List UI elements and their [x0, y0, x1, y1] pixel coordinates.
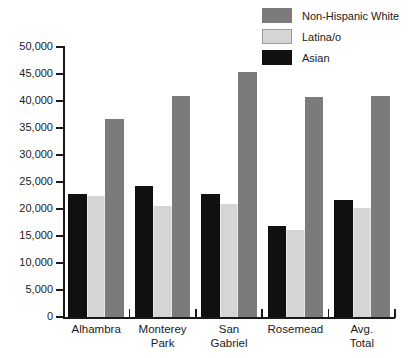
x-axis-category-label-line: Alhambra	[63, 322, 129, 336]
bar-latina-o-alhambra	[87, 196, 106, 318]
bar-non-hispanic-white-alhambra	[105, 119, 124, 317]
y-axis-tick-label: 30,000	[0, 149, 53, 160]
y-axis-tick-label: 20,000	[0, 203, 53, 214]
legend-label-non-hispanic-white: Non-Hispanic White	[302, 10, 399, 22]
y-axis-tick	[56, 289, 63, 291]
x-axis-category-label-line: San	[196, 322, 262, 336]
y-axis-tick-label: 45,000	[0, 68, 53, 79]
bar-latina-o-san-gabriel	[220, 204, 239, 317]
legend-swatch-non-hispanic-white	[262, 8, 292, 23]
bar-asian-alhambra	[68, 194, 87, 317]
x-axis-category-label-line: Gabriel	[196, 336, 262, 350]
x-axis-category-label-line: Rosemead	[262, 322, 328, 336]
y-axis-tick	[56, 262, 63, 264]
y-axis-tick-label: 35,000	[0, 122, 53, 133]
bar-non-hispanic-white-rosemead	[305, 97, 324, 317]
y-axis-tick	[56, 181, 63, 183]
y-axis-tick	[56, 235, 63, 237]
plot-area	[63, 47, 395, 317]
bar-chart: Non-Hispanic White Latina/o Asian 50,000…	[0, 0, 409, 358]
y-axis-tick-label: 10,000	[0, 257, 53, 268]
bar-non-hispanic-white-monterey-park	[172, 96, 191, 317]
y-axis-tick-label: 5,000	[0, 284, 53, 295]
y-axis-tick	[56, 208, 63, 210]
legend-swatch-latina-o	[262, 29, 292, 44]
x-axis-category-label-san-gabriel: SanGabriel	[196, 322, 262, 350]
x-axis-category-label-line: Park	[129, 336, 195, 350]
x-axis-category-label-line: Monterey	[129, 322, 195, 336]
bar-asian-monterey-park	[135, 186, 154, 317]
y-axis-tick	[56, 154, 63, 156]
y-axis-tick-label: 50,000	[0, 41, 53, 52]
y-axis-tick-label: 15,000	[0, 230, 53, 241]
bar-non-hispanic-white-san-gabriel	[238, 72, 257, 317]
y-axis-tick	[56, 127, 63, 129]
bar-latina-o-rosemead	[286, 230, 305, 317]
y-axis-tick	[56, 100, 63, 102]
y-axis-tick-label: 40,000	[0, 95, 53, 106]
y-axis-tick-label: 25,000	[0, 176, 53, 187]
x-axis-category-label-alhambra: Alhambra	[63, 322, 129, 336]
y-axis-tick-label: 0	[0, 311, 53, 322]
x-axis-line	[63, 317, 395, 319]
bar-latina-o-avg-total	[353, 208, 372, 317]
legend-item-non-hispanic-white: Non-Hispanic White	[262, 6, 409, 25]
y-axis-tick	[56, 46, 63, 48]
legend-label-latina-o: Latina/o	[302, 31, 341, 43]
x-axis-category-label-rosemead: Rosemead	[262, 322, 328, 336]
y-axis-tick	[56, 316, 63, 318]
bar-asian-san-gabriel	[201, 194, 220, 317]
legend-item-latina-o: Latina/o	[262, 27, 409, 46]
y-axis-tick	[56, 73, 63, 75]
bar-latina-o-monterey-park	[153, 206, 172, 317]
x-axis-category-label-line: Avg.	[329, 322, 395, 336]
x-axis-category-label-avg-total: Avg.Total	[329, 322, 395, 350]
bar-non-hispanic-white-avg-total	[371, 96, 390, 317]
x-axis-category-label-monterey-park: MontereyPark	[129, 322, 195, 350]
bar-asian-avg-total	[334, 200, 353, 317]
x-axis-category-label-line: Total	[329, 336, 395, 350]
bar-asian-rosemead	[268, 226, 287, 317]
